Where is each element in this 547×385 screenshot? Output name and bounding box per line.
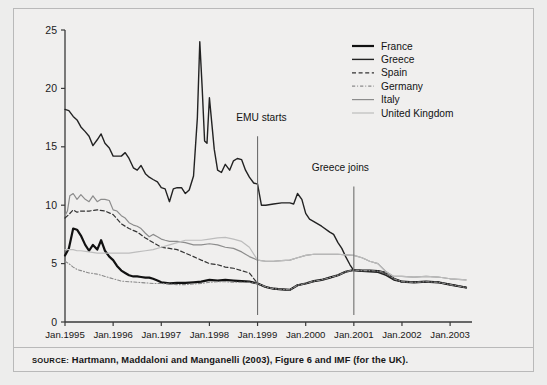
legend-label-spain: Spain	[381, 67, 407, 78]
annotation-label-emu-starts: EMU starts	[236, 112, 286, 123]
series-line-italy	[65, 194, 466, 280]
series-line-germany	[65, 261, 466, 290]
series-line-france	[65, 229, 466, 290]
y-tick-label-15: 15	[45, 140, 57, 152]
figure-panel: 0510152025Jan.1995Jan.1996Jan.1997Jan.19…	[0, 0, 547, 385]
source-citation: Hartmann, Maddaloni and Manganelli (2003…	[72, 355, 408, 365]
y-tick-label-5: 5	[51, 257, 57, 269]
x-tick-label-Jan.1997: Jan.1997	[142, 329, 181, 340]
legend-label-germany: Germany	[381, 81, 424, 92]
series-line-greece	[65, 42, 466, 288]
y-tick-label-25: 25	[45, 24, 57, 36]
legend-label-greece: Greece	[381, 54, 415, 65]
line-chart: 0510152025Jan.1995Jan.1996Jan.1997Jan.19…	[0, 0, 547, 385]
chart-legend: FranceGreeceSpainGermanyItalyUnited King…	[352, 41, 454, 119]
series-line-spain	[65, 210, 466, 290]
legend-label-france: France	[381, 41, 413, 52]
source-label: SOURCE:	[32, 356, 69, 365]
source-note: SOURCE: Hartmann, Maddaloni and Manganel…	[14, 347, 533, 371]
x-tick-label-Jan.1998: Jan.1998	[190, 329, 229, 340]
x-tick-label-Jan.1999: Jan.1999	[238, 329, 277, 340]
y-tick-label-20: 20	[45, 82, 57, 94]
source-text: SOURCE: Hartmann, Maddaloni and Manganel…	[14, 355, 408, 365]
x-tick-label-Jan.2000: Jan.2000	[286, 329, 325, 340]
legend-label-italy: Italy	[381, 94, 401, 105]
annotation-label-greece-joins: Greece joins	[312, 162, 369, 173]
x-tick-label-Jan.1996: Jan.1996	[93, 329, 132, 340]
y-tick-label-10: 10	[45, 199, 57, 211]
x-tick-label-Jan.2001: Jan.2001	[334, 329, 373, 340]
y-tick-label-0: 0	[51, 316, 57, 328]
x-tick-label-Jan.2003: Jan.2003	[430, 329, 469, 340]
x-tick-label-Jan.1995: Jan.1995	[45, 329, 84, 340]
x-tick-label-Jan.2002: Jan.2002	[382, 329, 421, 340]
legend-label-united-kingdom: United Kingdom	[381, 108, 454, 119]
